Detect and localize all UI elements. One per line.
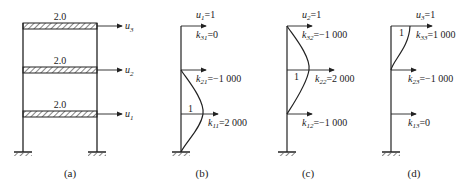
label-k21: k21=−1 000 — [196, 73, 241, 86]
unit-displacement-label: 1 — [399, 27, 404, 38]
unit-displacement-label: 1 — [188, 103, 193, 114]
dof-label-u2: u2 — [125, 64, 134, 78]
fixed-support — [172, 152, 190, 156]
fixed-support — [278, 152, 296, 156]
label-k31: k31=0 — [196, 29, 218, 42]
panel-c-u2: u2=1 k32=−1 000 1 k22=2 000 k12=−1 000 (… — [278, 9, 355, 180]
label-k23: k23=−1 000 — [408, 73, 453, 86]
panel-d-u3: u3=1 1 k33=1 000 k23=−1 000 k13=0 (d) — [382, 9, 456, 180]
unit-displacement-label: 1 — [294, 71, 299, 82]
mass-label-floor-3: 2.0 — [54, 11, 67, 22]
disp-label-u1: u1=1 — [196, 9, 215, 22]
mass-label-floor-1: 2.0 — [54, 99, 67, 110]
label-k33: k33=1 000 — [416, 29, 456, 42]
label-k22: k22=2 000 — [315, 73, 355, 86]
disp-label-u3: u3=1 — [416, 9, 435, 22]
label-k32: k32=−1 000 — [302, 29, 347, 42]
caption-d: (d) — [408, 167, 421, 180]
fixed-support — [382, 152, 400, 156]
beam-floor-3 — [23, 23, 97, 29]
beam-floor-2 — [23, 67, 97, 73]
label-k13: k13=0 — [408, 117, 430, 130]
panel-b-u1: u1=1 k31=0 k21=−1 000 1 k11=2 000 (b) — [172, 9, 247, 180]
dof-label-u1: u1 — [125, 108, 134, 122]
fixed-support-right — [88, 152, 106, 156]
dof-label-u3: u3 — [125, 20, 134, 34]
panel-a-frame: 2.0 2.0 2.0 u3 u2 u1 (a) — [14, 11, 134, 180]
fixed-support-left — [14, 152, 32, 156]
caption-a: (a) — [64, 167, 77, 180]
stiffness-diagram: 2.0 2.0 2.0 u3 u2 u1 (a) u1=1 k31=0 k21=… — [0, 0, 468, 187]
caption-c: (c) — [302, 167, 315, 180]
label-k11: k11=2 000 — [208, 117, 247, 130]
beam-floor-1 — [23, 111, 97, 117]
mass-label-floor-2: 2.0 — [54, 55, 67, 66]
caption-b: (b) — [196, 167, 209, 180]
disp-label-u2: u2=1 — [302, 9, 321, 22]
label-k12: k12=−1 000 — [302, 117, 347, 130]
